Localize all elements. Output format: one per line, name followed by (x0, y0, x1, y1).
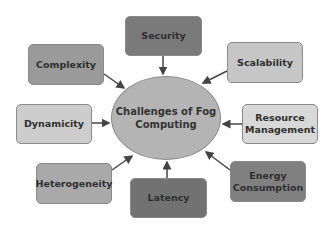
node-energy-consumption: Energy Consumption (230, 161, 306, 202)
node-complexity: Complexity (28, 44, 104, 85)
node-heterogeneity: Heterogeneity (36, 163, 112, 204)
node-latency: Latency (130, 178, 207, 218)
center-node: Challenges of Fog Computing (111, 76, 221, 160)
node-resource-management: Resource Management (242, 104, 318, 144)
node-scalability: Scalability (227, 42, 303, 83)
node-security: Security (125, 16, 202, 56)
arrow-scalability (203, 71, 227, 83)
node-dynamicity: Dynamicity (16, 104, 92, 144)
arrow-energy-consumption (206, 152, 230, 170)
arrow-complexity (104, 74, 124, 88)
arrow-heterogeneity (112, 156, 132, 170)
